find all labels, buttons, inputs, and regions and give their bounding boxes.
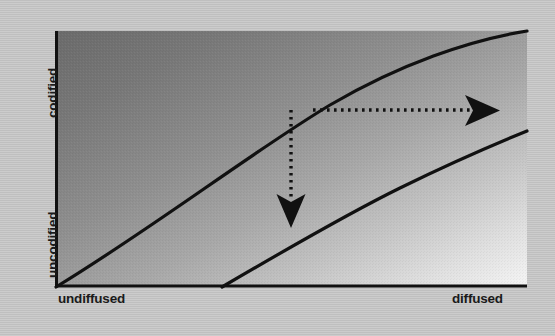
y-axis-label-codified: codified — [45, 68, 60, 118]
x-axis-label-undiffused: undiffused — [58, 291, 125, 306]
x-axis-label-diffused: diffused — [452, 291, 503, 306]
codification-diffusion-plot — [0, 0, 555, 336]
figure-canvas: codified uncodified undiffused diffused — [0, 0, 555, 336]
y-axis-label-uncodified: uncodified — [45, 212, 60, 278]
